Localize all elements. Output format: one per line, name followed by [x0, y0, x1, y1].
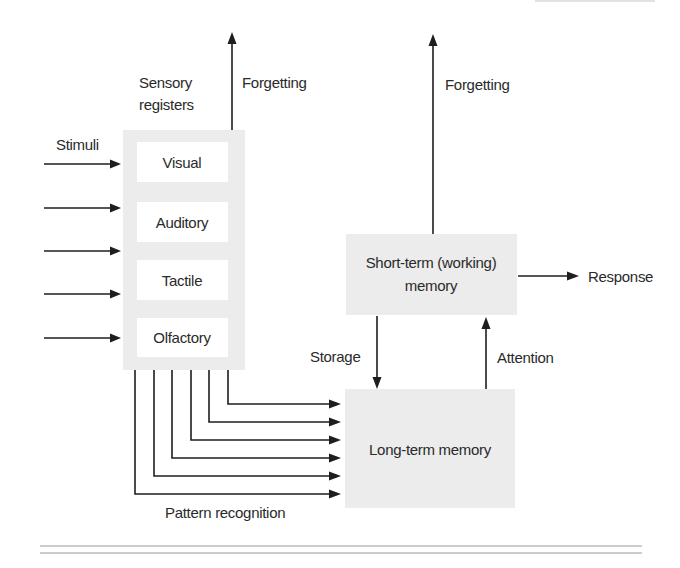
arrowhead-icon — [482, 317, 491, 329]
arrowhead-icon — [329, 472, 341, 481]
arrowhead-icon — [329, 400, 341, 409]
ltm-label: Long-term memory — [369, 441, 492, 458]
response-arrow — [518, 272, 579, 281]
cell-visual-label: Visual — [163, 154, 202, 171]
arrowhead-icon — [329, 436, 341, 445]
arrowhead-icon — [567, 272, 579, 281]
cell-olfactory-label: Olfactory — [153, 329, 211, 346]
sensory-registers-label-line1: Sensory — [139, 74, 193, 91]
arrowhead-icon — [110, 160, 121, 169]
forgetting-arrow-sensory — [228, 32, 237, 130]
arrowhead-icon — [110, 247, 121, 256]
cell-auditory-label: Auditory — [156, 214, 209, 231]
arrowhead-icon — [373, 377, 382, 389]
cell-tactile-label: Tactile — [162, 272, 202, 289]
arrowhead-icon — [110, 290, 121, 299]
attention-label: Attention — [497, 349, 554, 366]
arrowhead-icon — [110, 204, 121, 213]
forgetting-sensory-label: Forgetting — [242, 74, 307, 91]
stm-label-line1: Short-term (working) — [366, 254, 497, 271]
arrowhead-icon — [329, 418, 341, 427]
memory-model-diagram: Visual Auditory Tactile Olfactory Sensor… — [0, 0, 680, 568]
arrowhead-icon — [329, 490, 341, 499]
pattern-recognition-arrows — [135, 370, 341, 499]
storage-label: Storage — [310, 348, 360, 365]
sensory-registers-label-line2: registers — [139, 96, 194, 113]
stm-label-line2: memory — [405, 277, 458, 294]
response-label: Response — [588, 268, 653, 285]
attention-arrow — [482, 317, 491, 389]
stimuli-arrows — [44, 160, 121, 343]
arrowhead-icon — [110, 334, 121, 343]
storage-arrow — [373, 316, 382, 389]
stimuli-label: Stimuli — [56, 136, 99, 153]
long-term-memory-block: Long-term memory — [345, 389, 515, 508]
short-term-memory-block: Short-term (working) memory — [346, 234, 517, 315]
arrowhead-icon — [329, 454, 341, 463]
sensory-registers-block: Visual Auditory Tactile Olfactory — [123, 130, 245, 370]
short-term-memory-box — [346, 234, 517, 315]
arrowhead-icon — [228, 32, 237, 44]
forgetting-arrow-stm — [429, 34, 438, 234]
arrowhead-icon — [429, 34, 438, 46]
pattern-recognition-label: Pattern recognition — [165, 504, 285, 521]
forgetting-stm-label: Forgetting — [445, 76, 510, 93]
